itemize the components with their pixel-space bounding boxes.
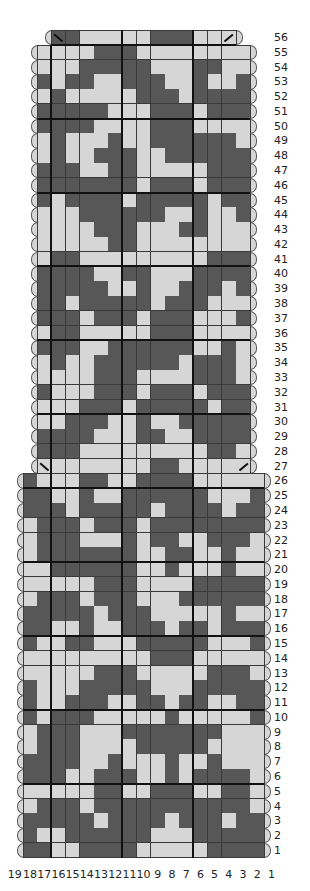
stitch-cell bbox=[222, 562, 237, 577]
row-number: 46 bbox=[274, 179, 304, 193]
stitch-cell bbox=[94, 444, 109, 459]
stitch-cell bbox=[66, 429, 81, 444]
row-cap-right bbox=[264, 828, 271, 843]
stitch-cell bbox=[122, 60, 137, 75]
stitch-cell bbox=[193, 828, 208, 843]
stitch-cell bbox=[165, 666, 180, 681]
stitch-cell bbox=[222, 296, 237, 311]
stitch-cell bbox=[137, 562, 152, 577]
stitch-cell bbox=[193, 266, 208, 281]
stitch-cell bbox=[66, 296, 81, 311]
stitch-cell bbox=[165, 355, 180, 370]
stitch-cell bbox=[51, 503, 66, 518]
stitch-cell bbox=[94, 414, 109, 429]
row-number: 19 bbox=[274, 578, 304, 592]
stitch-cell bbox=[23, 680, 38, 695]
stitch-cell bbox=[222, 429, 237, 444]
stitch-cell bbox=[94, 207, 109, 222]
stitch-cell bbox=[94, 739, 109, 754]
stitch-cell bbox=[151, 193, 166, 208]
stitch-cell bbox=[165, 237, 180, 252]
grid-thick-line-vertical bbox=[50, 45, 52, 858]
stitch-cell bbox=[236, 237, 251, 252]
stitch-cell bbox=[137, 266, 152, 281]
row-number: 1 bbox=[274, 844, 304, 858]
row-cap-right bbox=[264, 488, 271, 503]
stitch-cell bbox=[51, 133, 66, 148]
stitch-cell bbox=[51, 592, 66, 607]
row-cap-right bbox=[264, 518, 271, 533]
stitch-cell bbox=[80, 488, 95, 503]
row-cap-right bbox=[264, 784, 271, 799]
stitch-cell bbox=[66, 533, 81, 548]
stitch-cell bbox=[222, 193, 237, 208]
stitch-cell bbox=[151, 340, 166, 355]
row-cap-right bbox=[264, 636, 271, 651]
row-cap-right bbox=[264, 592, 271, 607]
stitch-cell bbox=[80, 813, 95, 828]
stitch-cell bbox=[222, 784, 237, 799]
stitch-cell bbox=[236, 503, 251, 518]
stitch-cell bbox=[66, 577, 81, 592]
stitch-cell bbox=[80, 193, 95, 208]
stitch-cell bbox=[236, 340, 251, 355]
stitch-cell bbox=[151, 533, 166, 548]
stitch-cell bbox=[80, 281, 95, 296]
row-number: 31 bbox=[274, 401, 304, 415]
stitch-cell bbox=[94, 488, 109, 503]
stitch-cell bbox=[51, 340, 66, 355]
stitch-cell bbox=[165, 193, 180, 208]
stitch-cell bbox=[165, 813, 180, 828]
stitch-cell bbox=[122, 725, 137, 740]
stitch-cell bbox=[250, 651, 265, 666]
stitch-cell bbox=[66, 754, 81, 769]
stitch-cell bbox=[94, 636, 109, 651]
row-cap-right bbox=[250, 252, 257, 267]
stitch-cell bbox=[80, 577, 95, 592]
row-cap-right bbox=[264, 666, 271, 681]
stitch-cell bbox=[122, 370, 137, 385]
stitch-cell bbox=[151, 222, 166, 237]
stitch-cell bbox=[236, 370, 251, 385]
stitch-cell bbox=[122, 518, 137, 533]
stitch-cell bbox=[193, 444, 208, 459]
stitch-cell bbox=[94, 651, 109, 666]
stitch-cell bbox=[137, 813, 152, 828]
stitch-cell bbox=[236, 207, 251, 222]
stitch-cell bbox=[94, 89, 109, 104]
stitch-cell bbox=[66, 444, 81, 459]
stitch-cell bbox=[151, 237, 166, 252]
stitch-cell bbox=[208, 488, 223, 503]
stitch-cell bbox=[151, 666, 166, 681]
stitch-cell bbox=[165, 429, 180, 444]
stitch-cell bbox=[80, 60, 95, 75]
row-number: 35 bbox=[274, 341, 304, 355]
stitch-cell bbox=[222, 577, 237, 592]
row-number: 38 bbox=[274, 297, 304, 311]
stitch-cell bbox=[137, 710, 152, 725]
stitch-cell bbox=[137, 606, 152, 621]
row-cap-right bbox=[250, 119, 257, 134]
row-cap-right bbox=[250, 193, 257, 208]
stitch-cell bbox=[151, 799, 166, 814]
stitch-cell bbox=[250, 503, 265, 518]
stitch-cell bbox=[208, 355, 223, 370]
stitch-cell bbox=[94, 710, 109, 725]
stitch-cell bbox=[208, 636, 223, 651]
stitch-cell bbox=[66, 266, 81, 281]
grid-thick-line-horizontal bbox=[37, 118, 250, 120]
stitch-cell bbox=[66, 60, 81, 75]
stitch-cell bbox=[222, 503, 237, 518]
stitch-cell bbox=[222, 533, 237, 548]
stitch-cell bbox=[250, 725, 265, 740]
stitch-cell bbox=[236, 784, 251, 799]
stitch-cell bbox=[94, 340, 109, 355]
row-cap-right bbox=[250, 429, 257, 444]
stitch-cell bbox=[151, 133, 166, 148]
stitch-cell bbox=[122, 414, 137, 429]
stitch-cell bbox=[236, 651, 251, 666]
stitch-cell bbox=[94, 133, 109, 148]
stitch-cell bbox=[208, 163, 223, 178]
row-cap-right bbox=[264, 651, 271, 666]
stitch-cell bbox=[94, 606, 109, 621]
